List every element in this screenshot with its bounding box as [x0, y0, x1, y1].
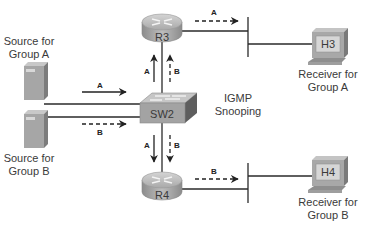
flow-label-r4-a: A: [144, 141, 150, 150]
router-r4: R4: [142, 172, 182, 201]
flow-label-lan-a: A: [211, 8, 217, 17]
source-b-caption-line2: Group B: [9, 165, 50, 177]
flow-label-r4-b: B: [174, 141, 180, 150]
source-a-caption-line2: Group A: [9, 48, 50, 60]
flow-label-r3-a: A: [144, 67, 150, 76]
igmp-snooping-label-line2: Snooping: [215, 105, 262, 117]
flow-label-r3-b: B: [174, 67, 180, 76]
host-h4: H4: [308, 156, 348, 193]
router-r3: R3: [142, 14, 182, 43]
host-h3-label: H3: [321, 38, 335, 50]
h3-caption-line1: Receiver for: [298, 68, 358, 80]
flow-label-src-a: A: [97, 81, 103, 90]
server-source-a: [24, 62, 48, 100]
h4-caption-line2: Group B: [308, 209, 349, 221]
igmp-snooping-diagram: A B A B A B A B R3 R4: [0, 0, 365, 233]
h3-caption-line2: Group A: [308, 81, 349, 93]
host-h4-label: H4: [321, 166, 335, 178]
source-b-caption-line1: Source for: [4, 152, 55, 164]
switch-sw2: SW2: [140, 93, 197, 123]
flow-label-lan-b: B: [211, 167, 217, 176]
source-a-caption-line1: Source for: [4, 35, 55, 47]
host-h3: H3: [308, 28, 348, 65]
switch-sw2-label: SW2: [150, 108, 174, 120]
igmp-snooping-label-line1: IGMP: [224, 92, 252, 104]
h4-caption-line1: Receiver for: [298, 196, 358, 208]
router-r4-label: R4: [155, 189, 169, 201]
server-source-b: [24, 110, 48, 148]
flow-label-src-b: B: [97, 128, 103, 137]
router-r3-label: R3: [155, 31, 169, 43]
